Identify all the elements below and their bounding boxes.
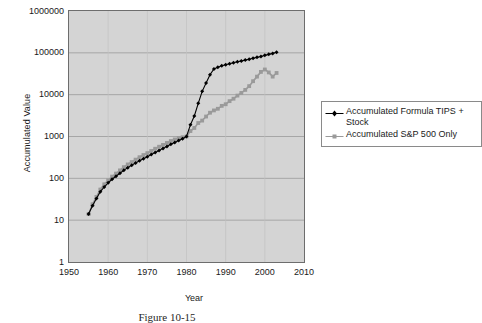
x-axis-title: Year [164,293,224,303]
chart-legend: Accumulated Formula TIPS + StockAccumula… [321,101,482,147]
legend-entry: Accumulated Formula TIPS + Stock [325,106,479,128]
black-diamond-line-marker-icon [325,109,344,116]
legend-label: Accumulated S&P 500 Only [346,129,479,140]
figure-caption: Figure 10-15 [72,311,262,323]
gray-square-line-marker-icon [325,132,344,139]
legend-entry: Accumulated S&P 500 Only [325,129,479,140]
x-tick-label: 2010 [281,268,327,277]
legend-label: Accumulated Formula TIPS + Stock [346,106,479,128]
